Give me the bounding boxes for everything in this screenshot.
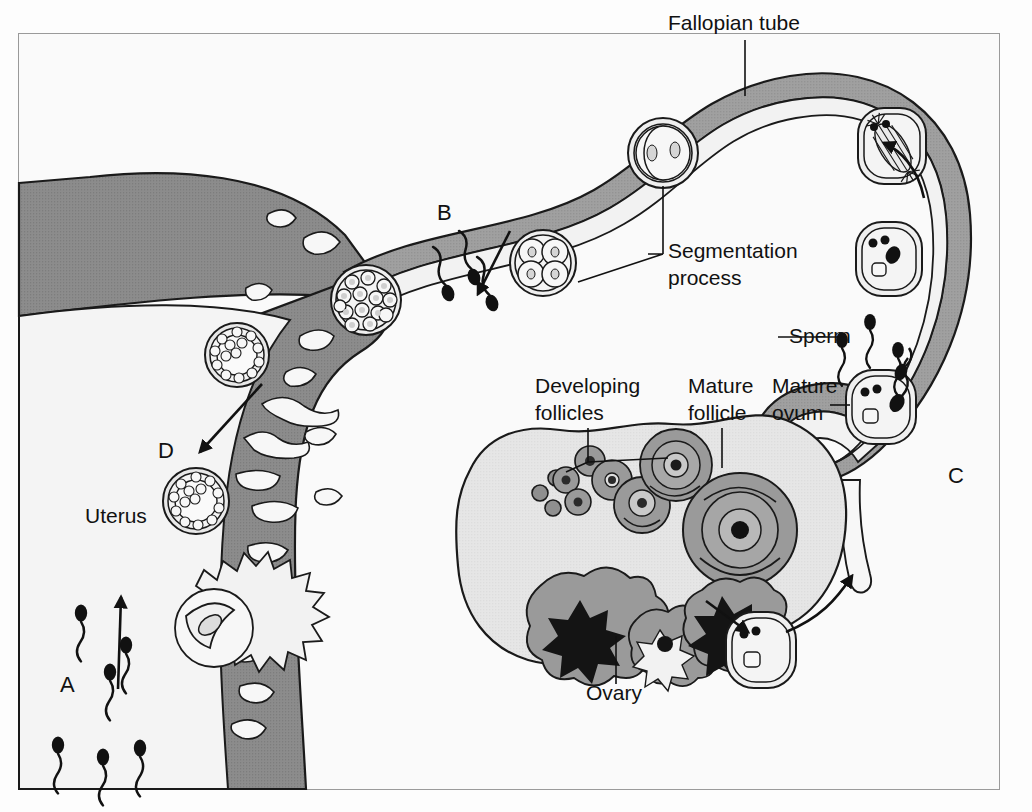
label-ovary: Ovary [586,681,643,704]
fertilized-ovum [856,222,922,296]
label-developing-follicles-line1: Developing [535,374,640,397]
label-mature-follicle-line2: follicle [688,401,746,424]
label-segmentation-line1: Segmentation [668,239,798,262]
mature-ovum-cell [846,348,916,444]
marker-a: A [60,672,75,697]
marker-d: D [158,438,174,463]
label-segmentation-line2: process [668,266,742,289]
marker-c: C [948,463,964,488]
fertilization-diagram: Fallopian tube Segmentation process Sper… [0,0,1032,812]
label-developing-follicles-line2: follicles [535,401,604,424]
label-mature-ovum-line1: Mature [772,374,837,397]
two-cell-stage [628,118,698,188]
label-mature-ovum-line2: ovum [772,401,823,424]
diagram-stage: Fallopian tube Segmentation process Sper… [0,0,1032,812]
marker-b: B [437,200,452,225]
blastocyst-implanting [163,468,229,534]
label-mature-follicle-line1: Mature [688,374,753,397]
mature-follicle [683,473,797,587]
label-uterus: Uterus [85,504,147,527]
blastocyst-descending [205,323,269,387]
four-cell-stage [510,230,576,296]
label-sperm: Sperm [789,324,851,347]
label-fallopian-tube: Fallopian tube [668,11,800,34]
morula-stage [331,265,401,335]
